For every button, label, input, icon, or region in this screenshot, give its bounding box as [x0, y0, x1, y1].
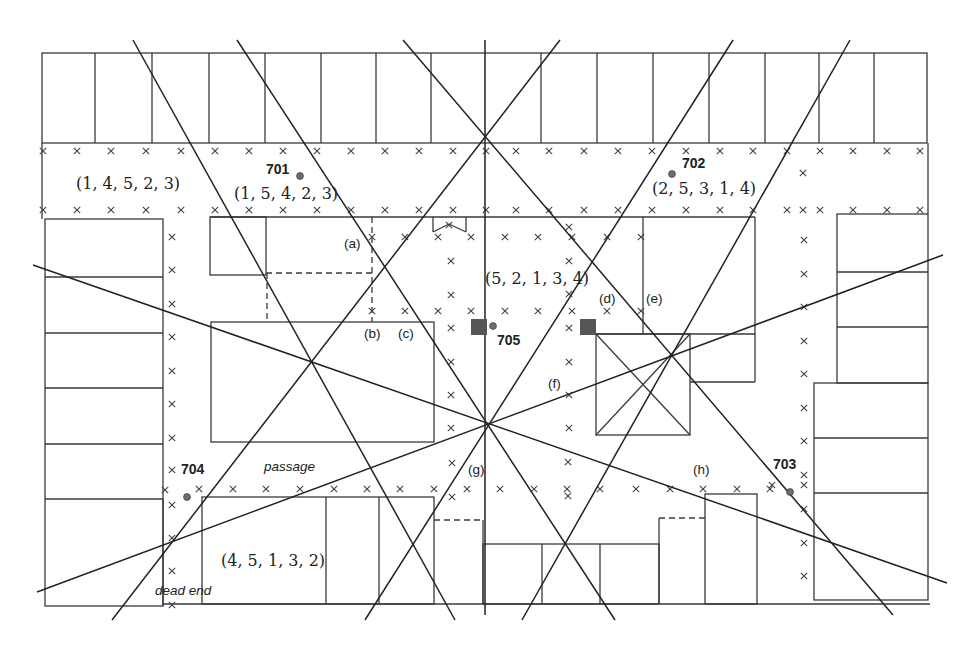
tuple-label-street-top-left: (1, 4, 5, 2, 3) — [76, 174, 180, 193]
camera-square-icon — [580, 319, 596, 335]
viewpoint-705-dot — [490, 323, 497, 330]
marker-label-c: (c) — [398, 326, 414, 341]
tuple-label-701: (1, 5, 4, 2, 3) — [234, 184, 338, 203]
dead-end-label: dead end — [155, 583, 212, 598]
passage-label: passage — [263, 459, 315, 474]
viewpoint-702-dot — [669, 171, 676, 178]
street-map-diagram: (1, 4, 5, 2, 3)701(1, 5, 4, 2, 3)702(2, … — [0, 0, 976, 648]
marker-label-g: (g) — [468, 462, 485, 477]
viewpoint-703-dot — [787, 489, 794, 496]
marker-label-a: (a) — [344, 236, 361, 251]
viewpoint-703-label: 703 — [773, 456, 797, 472]
tuple-label-702: (2, 5, 3, 1, 4) — [652, 179, 756, 198]
marker-label-e: (e) — [646, 291, 663, 306]
marker-label-f: (f) — [548, 376, 561, 391]
camera-square-icon — [471, 319, 487, 335]
marker-label-h: (h) — [693, 462, 710, 477]
tuple-label-courtyard: (5, 2, 1, 3, 4) — [485, 269, 589, 288]
viewpoint-701-label: 701 — [266, 161, 290, 177]
tuple-label-bottom-left: (4, 5, 1, 3, 2) — [221, 551, 325, 570]
viewpoint-704-label: 704 — [181, 461, 205, 477]
viewpoint-704-dot — [184, 494, 191, 501]
viewpoint-702-label: 702 — [682, 155, 706, 171]
viewpoint-701-dot — [297, 173, 304, 180]
viewpoint-705-label: 705 — [497, 332, 521, 348]
marker-label-d: (d) — [599, 291, 616, 306]
marker-label-b: (b) — [364, 326, 381, 341]
